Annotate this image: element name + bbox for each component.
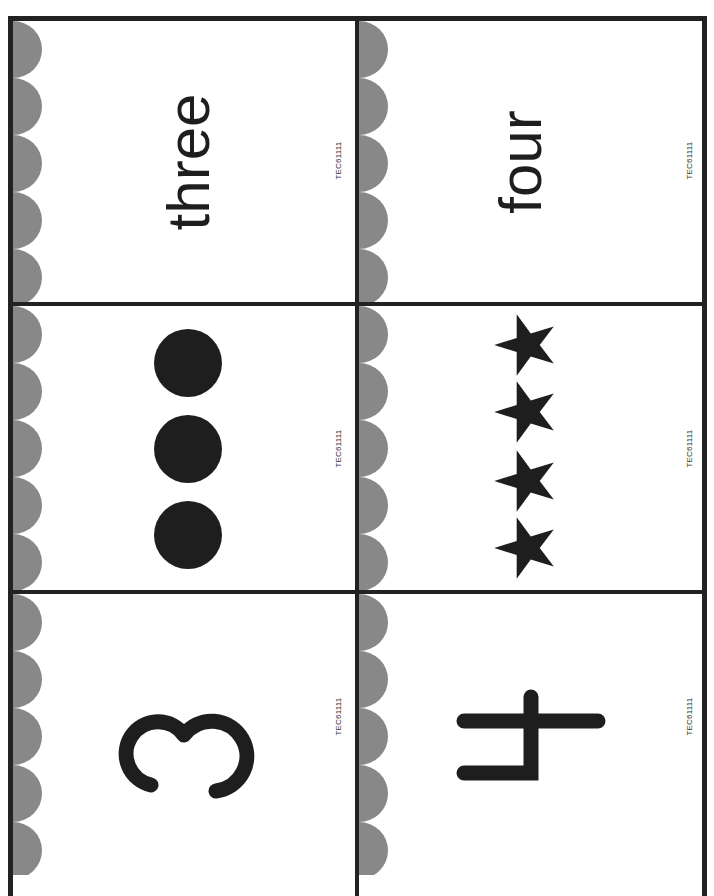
star-icon [493, 449, 557, 513]
star-icon [493, 313, 557, 377]
product-code: TEC61111 [334, 136, 343, 186]
number-word: three [159, 57, 221, 267]
scallop-edge [359, 306, 391, 590]
star-icon [493, 380, 557, 444]
card-four-numeral[interactable]: TEC61111 [359, 594, 703, 875]
number-word: four [491, 57, 553, 267]
product-code: TEC61111 [334, 424, 343, 474]
star-icon [493, 516, 557, 580]
scallop-edge [359, 21, 391, 302]
card-four-word[interactable]: four TEC61111 [359, 21, 703, 302]
circle-icon [154, 329, 222, 397]
card-three-dots[interactable]: TEC61111 [13, 306, 355, 590]
product-code: TEC61111 [685, 424, 694, 474]
numeral-3-glyph [113, 694, 263, 814]
circle-icon [154, 501, 222, 569]
card-four-stars[interactable]: TEC61111 [359, 306, 703, 590]
scallop-edge [13, 594, 45, 875]
product-code: TEC61111 [334, 692, 343, 742]
circle-icon [154, 415, 222, 483]
product-code: TEC61111 [685, 692, 694, 742]
scallop-edge [359, 594, 391, 875]
product-code: TEC61111 [685, 136, 694, 186]
card-three-word[interactable]: three TEC61111 [13, 21, 355, 302]
card-three-numeral[interactable]: TEC61111 [13, 594, 355, 875]
scallop-edge [13, 21, 45, 302]
scallop-edge [13, 306, 45, 590]
numeral-4-glyph [454, 684, 614, 794]
